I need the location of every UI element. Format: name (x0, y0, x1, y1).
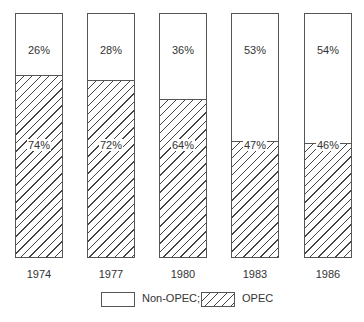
legend-swatch-opec (201, 292, 235, 307)
label-opec: 72% (88, 139, 134, 151)
label-non-opec: 53% (232, 44, 278, 56)
label-opec: 46% (305, 139, 351, 151)
bar-1977: 28%72% (87, 13, 135, 258)
segment-opec (305, 143, 351, 257)
label-opec: 64% (160, 139, 206, 151)
segment-opec (160, 99, 206, 257)
x-tick-label: 1977 (87, 268, 135, 280)
x-tick-label: 1980 (159, 268, 207, 280)
x-tick-label: 1974 (15, 268, 63, 280)
bar-1983: 53%47% (231, 13, 279, 258)
label-non-opec: 36% (160, 44, 206, 56)
segment-opec (88, 80, 134, 257)
bar-1986: 54%46% (304, 13, 352, 258)
x-tick-label: 1983 (231, 268, 279, 280)
label-non-opec: 54% (305, 44, 351, 56)
label-non-opec: 28% (88, 44, 134, 56)
label-opec: 47% (232, 139, 278, 151)
bar-1974: 26%74% (15, 13, 63, 258)
x-tick-label: 1986 (304, 268, 352, 280)
legend-label-opec: OPEC (242, 292, 273, 304)
legend-label-non-opec: Non-OPEC; (142, 292, 200, 304)
label-non-opec: 26% (16, 44, 62, 56)
segment-opec (232, 141, 278, 257)
bar-1980: 36%64% (159, 13, 207, 258)
legend-swatch-non-opec (101, 292, 135, 307)
segment-opec (16, 75, 62, 257)
label-opec: 74% (16, 139, 62, 151)
